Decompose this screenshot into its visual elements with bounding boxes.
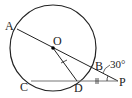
label-a: A	[5, 19, 14, 33]
line-ap	[17, 29, 118, 81]
label-p: P	[119, 75, 126, 89]
angle-arc-p	[107, 76, 108, 81]
label-b: B	[95, 59, 103, 73]
label-angle: 30°	[110, 58, 125, 70]
angle-pointer	[103, 65, 110, 73]
geometry-diagram: A O B 30° C D P	[0, 0, 132, 98]
segment-od	[53, 48, 77, 81]
label-c: C	[20, 80, 28, 94]
label-o: O	[53, 34, 62, 48]
label-d: D	[74, 81, 83, 95]
